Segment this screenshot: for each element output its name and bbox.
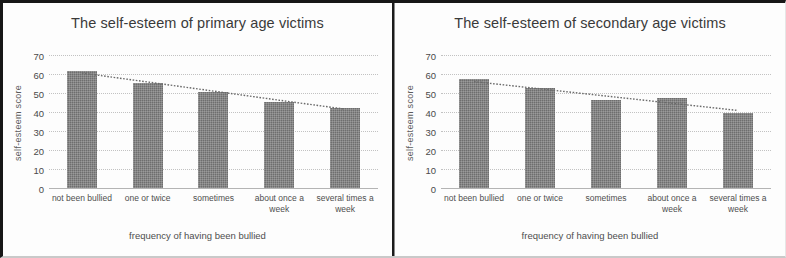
y-axis-label: self-esteem score bbox=[11, 63, 25, 183]
y-axis-tick: 70 bbox=[33, 51, 44, 62]
plot-area-secondary: 010203040506070 bbox=[441, 55, 771, 188]
bar bbox=[459, 79, 489, 188]
y-axis-tick: 40 bbox=[33, 108, 44, 119]
bar-cell bbox=[441, 55, 507, 188]
gridline: 0 bbox=[49, 188, 378, 189]
x-axis-tick: sometimes bbox=[181, 193, 247, 215]
y-axis-tick: 60 bbox=[425, 70, 436, 81]
gridline: 0 bbox=[441, 188, 771, 189]
x-axis-label: frequency of having been bullied bbox=[3, 230, 392, 241]
y-axis-tick: 20 bbox=[33, 146, 44, 157]
x-axis-tick: not been bullied bbox=[49, 193, 115, 215]
x-axis-tick: several times a week bbox=[312, 193, 378, 215]
bar-cell bbox=[705, 55, 771, 188]
bar-cell bbox=[312, 55, 378, 188]
chart-panel-secondary: The self-esteem of secondary age victims… bbox=[394, 3, 785, 256]
y-axis-tick: 10 bbox=[425, 165, 436, 176]
x-axis-tick: several times a week bbox=[705, 193, 771, 215]
bar-cell bbox=[573, 55, 639, 188]
x-axis-tick: about once a week bbox=[639, 193, 705, 215]
y-axis-tick: 0 bbox=[39, 184, 44, 195]
bar-group bbox=[441, 55, 771, 188]
y-axis-tick: 30 bbox=[33, 127, 44, 138]
y-axis-tick: 20 bbox=[425, 146, 436, 157]
x-axis-tick: one or twice bbox=[115, 193, 181, 215]
y-axis-label: self-esteem score bbox=[403, 63, 417, 183]
bar-cell bbox=[181, 55, 247, 188]
bar-cell bbox=[49, 55, 115, 188]
chart-panels: The self-esteem of primary age victims s… bbox=[3, 3, 785, 256]
x-axis-tick-labels: not been bulliedone or twicesometimesabo… bbox=[441, 193, 771, 215]
y-axis-tick: 60 bbox=[33, 70, 44, 81]
y-axis-tick: 40 bbox=[425, 108, 436, 119]
y-axis-tick: 10 bbox=[33, 165, 44, 176]
x-axis-tick: sometimes bbox=[573, 193, 639, 215]
y-axis-tick: 30 bbox=[425, 127, 436, 138]
plot-area-primary: 010203040506070 bbox=[49, 55, 378, 188]
figure-container: The self-esteem of primary age victims s… bbox=[0, 0, 786, 258]
bar bbox=[133, 83, 163, 188]
bar bbox=[264, 102, 294, 188]
x-axis-tick: about once a week bbox=[246, 193, 312, 215]
bar bbox=[67, 71, 97, 188]
bar bbox=[198, 92, 228, 188]
y-axis-tick: 70 bbox=[425, 51, 436, 62]
bar-cell bbox=[639, 55, 705, 188]
chart-panel-primary: The self-esteem of primary age victims s… bbox=[3, 3, 394, 256]
bar-cell bbox=[507, 55, 573, 188]
x-axis-tick-labels: not been bulliedone or twicesometimesabo… bbox=[49, 193, 378, 215]
bar bbox=[723, 113, 753, 188]
bar-cell bbox=[246, 55, 312, 188]
y-axis-tick: 50 bbox=[425, 89, 436, 100]
x-axis-tick: not been bullied bbox=[441, 193, 507, 215]
chart-title: The self-esteem of primary age victims bbox=[3, 15, 392, 31]
bar bbox=[591, 100, 621, 188]
bar-group bbox=[49, 55, 378, 188]
bar-cell bbox=[115, 55, 181, 188]
bar bbox=[657, 98, 687, 188]
chart-title: The self-esteem of secondary age victims bbox=[395, 15, 785, 31]
x-axis-tick: one or twice bbox=[507, 193, 573, 215]
y-axis-tick: 0 bbox=[431, 184, 436, 195]
bar bbox=[330, 108, 360, 188]
x-axis-label: frequency of having been bullied bbox=[395, 230, 785, 241]
y-axis-tick: 50 bbox=[33, 89, 44, 100]
bar bbox=[525, 88, 555, 188]
